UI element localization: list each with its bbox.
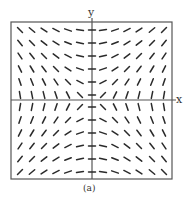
x-axis-label: x [176, 94, 182, 105]
figure-caption: (a) [83, 184, 95, 193]
slope-field-plot [0, 0, 194, 203]
y-axis-label: y [88, 7, 94, 18]
